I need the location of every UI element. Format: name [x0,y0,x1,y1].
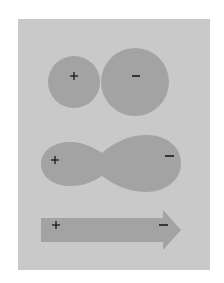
dipole-diagram [0,0,224,283]
negative-sphere [101,48,169,116]
positive-sphere [48,56,100,108]
